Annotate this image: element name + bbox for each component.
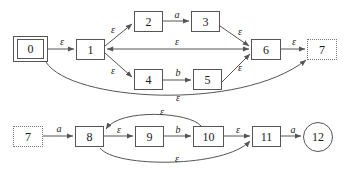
state-diagram-canvas: 0 1 2 3 4 5 6 7 7 8 9 10 11 12 ε ε a ε ε…: [0, 0, 345, 171]
edge-layer: [0, 0, 345, 171]
edge-label-2-to-3: a: [175, 10, 180, 20]
edge-label-1-to-2: ε: [111, 25, 115, 35]
state-node-8[interactable]: 8: [75, 126, 104, 147]
edge-label-0-to-7: ε: [176, 93, 180, 103]
state-node-11[interactable]: 11: [252, 126, 281, 147]
state-node-4[interactable]: 4: [134, 69, 163, 90]
edge-label-5-to-6: ε: [238, 63, 242, 73]
edge-label-4-to-5: b: [176, 68, 181, 78]
edge-label-10-to-11: ε: [236, 125, 240, 135]
state-node-3[interactable]: 3: [191, 11, 220, 32]
edge-1-to-2: [105, 24, 132, 46]
edge-3-to-6: [220, 26, 249, 46]
state-node-7-top[interactable]: 7: [307, 39, 337, 60]
state-node-0-label: 0: [17, 39, 44, 59]
edge-label-9-to-10: b: [176, 125, 181, 135]
state-node-2[interactable]: 2: [134, 11, 163, 32]
state-node-9[interactable]: 9: [135, 126, 164, 147]
edge-label-10-to-8: ε: [160, 107, 164, 117]
edge-label-0-to-1: ε: [60, 37, 64, 47]
state-node-12[interactable]: 12: [303, 122, 333, 152]
edge-label-6-to-7: ε: [292, 37, 296, 47]
state-node-0[interactable]: 0: [13, 36, 48, 62]
edge-label-3-to-6: ε: [238, 27, 242, 37]
state-node-10[interactable]: 10: [193, 126, 224, 147]
edge-5-to-6: [222, 54, 250, 82]
state-node-6[interactable]: 6: [251, 39, 281, 60]
state-node-7-bottom[interactable]: 7: [13, 126, 43, 147]
state-node-1[interactable]: 1: [76, 39, 105, 60]
edge-label-7-to-8: a: [57, 124, 62, 134]
edge-label-11-to-12: a: [291, 125, 296, 135]
state-node-5[interactable]: 5: [193, 69, 222, 90]
edge-label-8-to-11: ε: [175, 154, 179, 164]
edge-label-6-to-1: ε: [175, 37, 179, 47]
edge-1-to-4: [105, 53, 132, 77]
edge-label-8-to-9: ε: [117, 125, 121, 135]
edge-label-1-to-4: ε: [111, 66, 115, 76]
